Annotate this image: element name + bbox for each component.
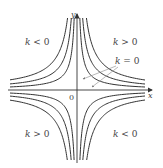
hyperbola-plot <box>0 0 163 168</box>
hyperbola-curve <box>80 93 145 160</box>
hyperbola-curve <box>86 18 145 80</box>
region-label-top-right: k > 0 <box>113 38 137 47</box>
origin-label: 0 <box>69 94 74 102</box>
region-label-top-left: k < 0 <box>25 38 49 47</box>
contour-diagram: y x 0 k < 0 k > 0 k > 0 k < 0 k = 0 <box>0 0 163 168</box>
x-axis-label: x <box>148 92 153 100</box>
k-zero-label: k = 0 <box>115 57 139 66</box>
hyperbola-curve <box>10 93 74 160</box>
hyperbola-curve <box>10 18 68 80</box>
y-axis-label: y <box>71 11 76 19</box>
hyperbola-curve <box>10 18 74 87</box>
region-label-bottom-left: k > 0 <box>25 130 49 139</box>
hyperbola-curve <box>83 18 145 84</box>
hyperbola-curve <box>83 96 145 160</box>
hyperbola-curve <box>10 18 71 84</box>
region-label-bottom-right: k < 0 <box>113 130 137 139</box>
